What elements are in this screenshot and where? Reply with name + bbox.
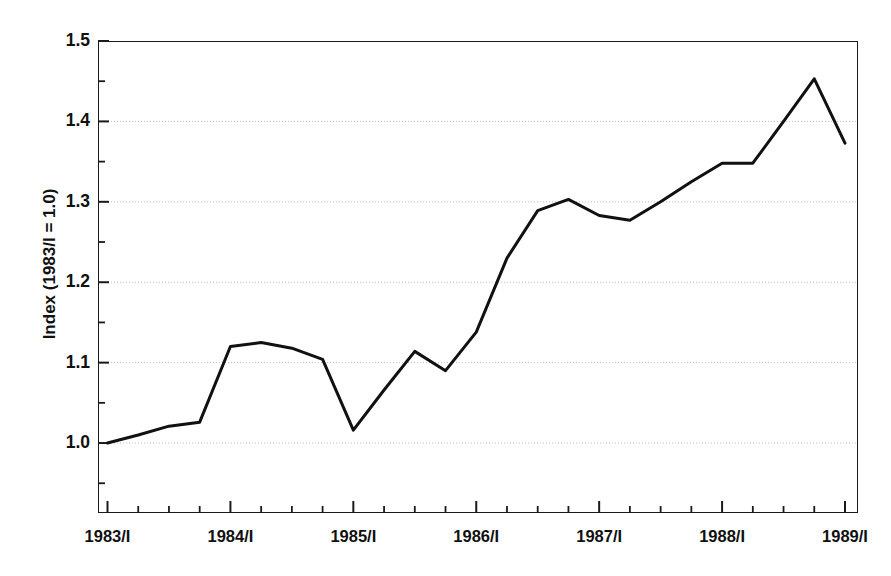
- gridlines: [99, 121, 857, 443]
- x-axis-tick-label: 1984/I: [207, 527, 253, 546]
- x-axis-tick-label: 1986/I: [453, 527, 499, 546]
- data-series-line: [108, 79, 846, 443]
- chart-figure: Index (1983/I = 1.0) 1.01.11.21.31.41.5 …: [0, 0, 891, 576]
- chart-canvas: [0, 0, 891, 576]
- y-axis-ticks: [98, 41, 109, 483]
- x-axis-tick-label: 1989/I: [822, 527, 868, 546]
- x-axis-ticks: [108, 501, 846, 513]
- x-axis-tick-label: 1985/I: [330, 527, 376, 546]
- x-axis-tick-label: 1987/I: [576, 527, 622, 546]
- x-axis-tick-label: 1988/I: [699, 527, 745, 546]
- x-axis-tick-label: 1983/I: [85, 527, 131, 546]
